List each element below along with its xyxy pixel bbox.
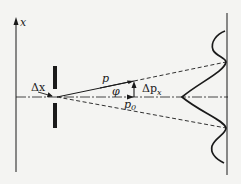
lower-ray bbox=[57, 97, 226, 128]
axis-label: x bbox=[20, 16, 27, 29]
axis-arrow-icon bbox=[14, 17, 19, 25]
delta-p-arrow-icon bbox=[132, 81, 137, 88]
delta-p-label: Δpx bbox=[142, 82, 162, 97]
diffraction-diagram: x Δx p φ Δpx p0 bbox=[0, 0, 241, 184]
x-axis: x bbox=[14, 16, 28, 172]
angle-label: φ bbox=[112, 85, 120, 98]
p0-label: p0 bbox=[124, 98, 136, 112]
slit-width-label: Δx bbox=[31, 81, 52, 96]
momentum-label: p bbox=[102, 72, 109, 85]
